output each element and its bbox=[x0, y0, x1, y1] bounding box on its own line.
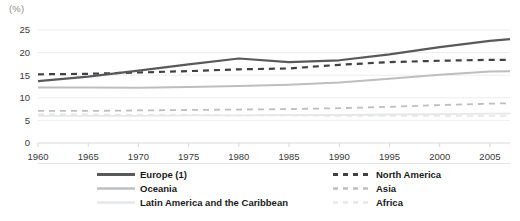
legend-item-europe[interactable]: Europe (1) bbox=[97, 168, 288, 181]
chart-legend: Europe (1)OceaniaLatin America and the C… bbox=[0, 168, 520, 221]
y-tick-label-15: 15 bbox=[19, 70, 30, 81]
legend-label-north_america: North America bbox=[376, 169, 441, 180]
x-tick-label-1980: 1980 bbox=[228, 151, 249, 162]
legend-item-oceania[interactable]: Oceania bbox=[97, 182, 288, 195]
data-series-group bbox=[38, 39, 510, 116]
legend-column-left: Europe (1)OceaniaLatin America and the C… bbox=[97, 168, 288, 210]
legend-divider bbox=[38, 163, 510, 164]
x-tick-label-1995: 1995 bbox=[379, 151, 400, 162]
x-axis-tick-marks bbox=[38, 143, 490, 147]
y-tick-label-20: 20 bbox=[19, 47, 30, 58]
legend-swatch-oceania-icon bbox=[97, 183, 135, 194]
series-line-asia bbox=[38, 103, 510, 111]
x-tick-label-1965: 1965 bbox=[78, 151, 99, 162]
legend-label-africa: Africa bbox=[376, 197, 403, 208]
line-chart-plot: 0510152025 19601965197019751980198519901… bbox=[0, 0, 520, 168]
x-tick-label-1975: 1975 bbox=[178, 151, 199, 162]
y-axis-tick-labels: 0510152025 bbox=[19, 24, 30, 148]
legend-swatch-africa-icon bbox=[333, 197, 371, 208]
y-tick-label-25: 25 bbox=[19, 24, 30, 35]
legend-swatch-latin_america-icon bbox=[97, 197, 135, 208]
legend-item-asia[interactable]: Asia bbox=[333, 182, 441, 195]
x-tick-label-1970: 1970 bbox=[128, 151, 149, 162]
legend-item-north_america[interactable]: North America bbox=[333, 168, 441, 181]
x-tick-label-1990: 1990 bbox=[329, 151, 350, 162]
legend-item-latin_america[interactable]: Latin America and the Caribbean bbox=[97, 196, 288, 209]
legend-label-europe: Europe (1) bbox=[140, 169, 187, 180]
legend-column-right: North AmericaAsiaAfrica bbox=[333, 168, 441, 210]
legend-swatch-europe-icon bbox=[97, 169, 135, 180]
legend-swatch-north_america-icon bbox=[333, 169, 371, 180]
x-tick-label-1960: 1960 bbox=[27, 151, 48, 162]
chart-container: (%) 0510152025 1960196519701975198019851… bbox=[0, 0, 520, 221]
legend-item-africa[interactable]: Africa bbox=[333, 196, 441, 209]
x-axis-tick-labels: 1960196519701975198019851990199520002005 bbox=[27, 151, 500, 162]
legend-swatch-asia-icon bbox=[333, 183, 371, 194]
y-tick-label-0: 0 bbox=[25, 137, 30, 148]
y-tick-label-10: 10 bbox=[19, 92, 30, 103]
x-tick-label-2000: 2000 bbox=[429, 151, 450, 162]
legend-label-asia: Asia bbox=[376, 183, 396, 194]
legend-label-latin_america: Latin America and the Caribbean bbox=[140, 197, 288, 208]
legend-label-oceania: Oceania bbox=[140, 183, 177, 194]
x-tick-label-1985: 1985 bbox=[278, 151, 299, 162]
y-tick-label-5: 5 bbox=[25, 115, 30, 126]
x-tick-label-2005: 2005 bbox=[479, 151, 500, 162]
